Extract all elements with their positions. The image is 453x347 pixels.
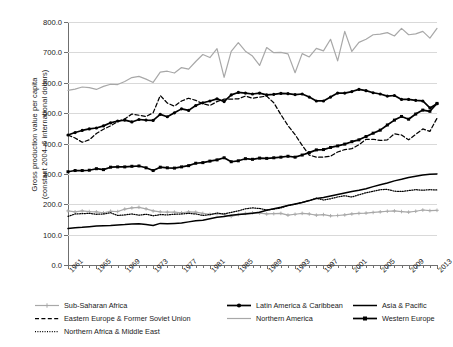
chart-root: Gross production value per capita (const…: [0, 0, 453, 347]
series-marker: [343, 143, 346, 146]
series-marker: [357, 212, 361, 216]
series-marker: [244, 91, 247, 94]
series-marker: [265, 93, 268, 96]
series-marker: [372, 91, 375, 94]
series-layer: [68, 22, 437, 265]
x-tick-mark-minor: [423, 265, 424, 268]
y-tick-label: 200.0: [0, 200, 62, 209]
series-marker: [102, 124, 105, 127]
series-marker: [307, 212, 311, 216]
x-tick-mark-minor: [203, 265, 204, 268]
series-marker: [166, 210, 170, 214]
series-marker: [258, 157, 261, 160]
legend-swatch-icon: [226, 301, 252, 310]
series-marker: [393, 94, 396, 97]
series-marker: [145, 166, 148, 169]
series-marker: [343, 91, 346, 94]
series-marker: [414, 209, 418, 213]
series-marker: [272, 212, 276, 216]
x-tick-mark-minor: [139, 265, 140, 268]
x-tick-mark-minor: [103, 265, 104, 268]
series-marker: [95, 167, 98, 170]
series-marker: [187, 164, 190, 167]
series-marker: [364, 89, 367, 92]
y-tick-label: 100.0: [0, 230, 62, 239]
series-marker: [180, 107, 183, 110]
x-tick-mark-minor: [338, 265, 339, 268]
x-tick-mark-minor: [309, 265, 310, 268]
series-marker: [88, 169, 91, 172]
x-tick-mark-minor: [274, 265, 275, 268]
legend-item[interactable]: Asia & Pacific: [352, 301, 427, 310]
series-marker: [208, 160, 211, 163]
series-marker: [152, 169, 155, 172]
x-tick-mark-minor: [224, 265, 225, 268]
series-marker: [393, 119, 396, 122]
y-tick-mark: [64, 22, 68, 23]
legend-swatch-icon: [34, 314, 60, 323]
series-marker: [378, 210, 382, 214]
y-tick-label: 300.0: [0, 169, 62, 178]
x-tick-mark-minor: [316, 265, 317, 268]
series-marker: [180, 165, 183, 168]
y-tick-label: 500.0: [0, 109, 62, 118]
series-marker: [301, 92, 304, 95]
legend-item[interactable]: Northern Africa & Middle East: [34, 327, 160, 336]
series-marker: [386, 123, 389, 126]
series-marker: [216, 158, 219, 161]
series-line: [68, 96, 437, 158]
series-marker: [73, 131, 76, 134]
series-marker: [265, 212, 269, 216]
series-marker: [144, 207, 148, 211]
series-marker: [414, 113, 417, 116]
series-marker: [116, 165, 119, 168]
series-line: [68, 174, 437, 229]
legend-label: Northern America: [256, 314, 313, 323]
y-tick-mark: [64, 174, 68, 175]
x-tick-mark-minor: [253, 265, 254, 268]
x-tick-mark-minor: [302, 265, 303, 268]
series-marker: [137, 164, 140, 167]
series-marker: [428, 209, 432, 213]
plot-area: [68, 22, 437, 265]
series-marker: [329, 146, 332, 149]
legend-item[interactable]: Eastern Europe & Former Soviet Union: [34, 314, 191, 323]
series-marker: [343, 213, 347, 217]
legend-label: Eastern Europe & Former Soviet Union: [64, 314, 191, 323]
y-tick-label: 600.0: [0, 78, 62, 87]
series-marker: [279, 92, 282, 95]
x-tick-mark-minor: [430, 265, 431, 268]
y-tick-mark: [64, 144, 68, 145]
x-tick-mark-minor: [359, 265, 360, 268]
x-tick-mark-minor: [189, 265, 190, 268]
series-marker: [88, 127, 91, 130]
series-marker: [357, 138, 360, 141]
series-marker: [350, 212, 354, 216]
legend-item[interactable]: Northern America: [226, 314, 313, 323]
series-marker: [350, 140, 353, 143]
series-marker: [116, 210, 120, 214]
series-marker: [208, 99, 211, 102]
series-marker: [286, 155, 289, 158]
series-marker: [400, 210, 404, 214]
x-tick-mark-minor: [281, 265, 282, 268]
series-marker: [123, 207, 127, 211]
series-marker: [315, 99, 318, 102]
series-marker: [286, 92, 289, 95]
x-tick-mark-minor: [146, 265, 147, 268]
series-marker: [272, 156, 275, 159]
series-marker: [102, 168, 105, 171]
legend-swatch-icon: [34, 301, 60, 310]
series-marker: [81, 169, 84, 172]
series-marker: [130, 206, 134, 210]
series-marker: [393, 209, 397, 213]
series-marker: [407, 118, 410, 121]
series-marker: [293, 93, 296, 96]
legend-item[interactable]: Sub-Saharan Africa: [34, 301, 127, 310]
legend-item[interactable]: Latin America & Caribbean: [226, 301, 343, 310]
series-marker: [237, 91, 240, 94]
x-tick-mark-minor: [394, 265, 395, 268]
series-marker: [74, 169, 77, 172]
legend-item[interactable]: Western Europe: [352, 314, 435, 323]
series-marker: [144, 119, 147, 122]
